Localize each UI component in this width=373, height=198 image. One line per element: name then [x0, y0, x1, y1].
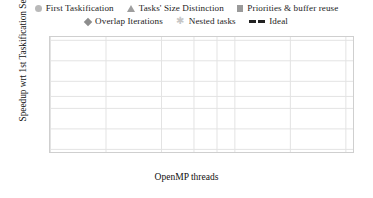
legend-item-tasks-size-distinction[interactable]: Tasks' Size Distinction	[127, 4, 224, 13]
data-series-layer	[50, 37, 353, 152]
legend-label: Priorities & buffer reuse	[247, 4, 338, 13]
legend-item-first-taskification[interactable]: First Taskification	[35, 4, 114, 13]
plot-area	[49, 36, 354, 153]
legend-label: Ideal	[269, 17, 288, 26]
triangle-marker-icon	[127, 5, 135, 12]
square-marker-icon	[237, 5, 244, 12]
star-marker-icon: ✱	[176, 17, 185, 26]
x-axis-label: OpenMP threads	[0, 172, 373, 182]
legend-row-2: Overlap Iterations ✱ Nested tasks Ideal	[0, 15, 373, 28]
legend-item-nested-tasks[interactable]: ✱ Nested tasks	[176, 17, 236, 26]
legend-item-overlap-iterations[interactable]: Overlap Iterations	[85, 17, 163, 26]
legend-label: Tasks' Size Distinction	[139, 4, 224, 13]
y-axis-label: Speedup wrt 1st Taskification Seq.	[18, 0, 28, 132]
chart-legend: First Taskification Tasks' Size Distinct…	[0, 2, 373, 28]
legend-item-ideal[interactable]: Ideal	[249, 17, 288, 26]
circle-marker-icon	[35, 5, 42, 12]
legend-label: First Taskification	[46, 4, 114, 13]
dashed-line-marker-icon	[249, 20, 266, 23]
speedup-chart-figure: First Taskification Tasks' Size Distinct…	[0, 0, 373, 198]
legend-label: Nested tasks	[189, 17, 236, 26]
legend-item-priorities-buffer-reuse[interactable]: Priorities & buffer reuse	[237, 4, 338, 13]
diamond-marker-icon	[84, 17, 92, 25]
legend-label: Overlap Iterations	[95, 17, 163, 26]
legend-row-1: First Taskification Tasks' Size Distinct…	[0, 2, 373, 15]
